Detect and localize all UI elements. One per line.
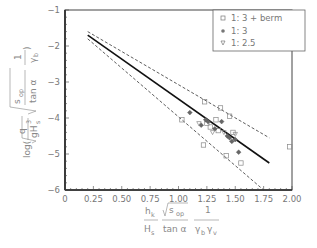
lower-bound-line [88,39,264,190]
diamond-marker [187,110,192,115]
x-tick-label: 0 [62,194,67,204]
xlabel-one: 1 [205,205,211,215]
y-tick-label: −1 [47,5,60,15]
x-tick-label: 1.25 [197,194,216,204]
ylabel-gamma-sub: b [32,53,40,57]
x-tick-label: 1.75 [254,194,273,204]
y-tick-label: −6 [47,185,60,195]
square-marker [201,143,205,147]
ylabel-s: s [12,99,22,104]
x-axis-label: h k H s s op tan α 1 γ b γ v [144,203,219,237]
square-marker [214,118,218,122]
x-tick-label: 1.00 [169,194,188,204]
square-marker [227,114,231,118]
square-marker [288,145,292,149]
triangle-marker [210,131,214,135]
xlabel-H-sub: s [151,229,155,237]
x-ticks: 00.250.500.751.001.251.501.752.00 [62,186,301,204]
xlabel-gamma-v-sub: v [213,229,217,237]
x-tick-label: 1.50 [226,194,245,204]
xlabel-H: H [144,224,151,234]
xlabel-s-sub: op [176,210,184,218]
y-tick-label: −2 [47,41,60,51]
y-tick-label: −4 [47,113,60,123]
x-tick-label: 0.50 [112,194,131,204]
xlabel-gamma-b-sub: b [201,229,205,237]
x-tick-label: 0.25 [84,194,103,204]
ylabel-tan: tan α [28,79,38,103]
legend: 1: 3 + berm 1: 3 1: 2.5 [213,10,305,51]
y-tick-label: −3 [47,77,60,87]
ylabel-close: ) [22,46,32,50]
ylabel-log: log( [22,141,32,158]
diamond-marker [219,119,224,124]
xlabel-h-sub: k [151,211,155,219]
data-points [180,100,292,166]
ylabel-s-sub: op [17,89,25,97]
ylabel-gh: gH [29,126,39,138]
legend-label-1-2-5: 1: 2.5 [231,38,256,48]
legend-label-berm: 1: 3 + berm [231,13,282,23]
ylabel-one: 1 [13,54,23,60]
xlabel-s: s [169,205,174,215]
chart: −1−2−3−4−5−6 00.250.500.751.001.251.501.… [0,0,317,248]
fit-line [88,35,270,163]
legend-label-1-3: 1: 3 [231,26,247,36]
legend-diamond-icon [221,29,225,33]
x-tick-label: 2.00 [283,194,302,204]
xlabel-tan: tan α [163,224,187,234]
diamond-marker [236,150,241,155]
xlabel-h: h [145,206,151,216]
regression-lines [88,32,270,190]
y-tick-label: −5 [47,149,60,159]
ylabel-gh-sub: s [34,120,42,124]
x-tick-label: 0.75 [141,194,160,204]
square-marker [239,161,243,165]
ylabel-gh-sup: 3 [25,120,33,124]
y-axis-label: log( q gH s 3 s op tan α 1 γ b ) [10,46,42,158]
